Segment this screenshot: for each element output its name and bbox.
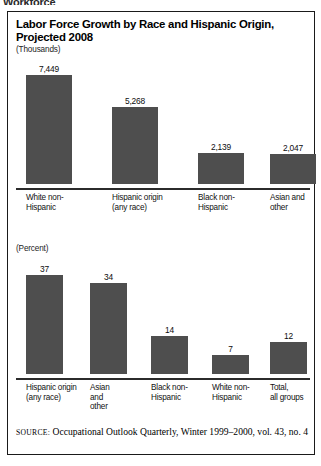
figure-title: Labor Force Growth by Race and Hispanic … — [16, 18, 308, 44]
bar-value-label: 2,047 — [283, 143, 303, 153]
category-label: Hispanic origin(any race) — [26, 383, 90, 402]
bar — [26, 275, 63, 374]
bar — [90, 283, 127, 374]
clipped-page-heading: Workforce — [3, 0, 153, 5]
category-label: Total,all groups — [270, 383, 321, 402]
figure-source-note: SOURCE: Occupational Outlook Quarterly, … — [16, 426, 312, 439]
bar-group: 2,047 — [270, 64, 316, 184]
chart1-axis-line — [16, 188, 310, 190]
bar-group: 7 — [212, 264, 249, 374]
category-label: Asian andother — [270, 193, 321, 212]
bar-group: 34 — [90, 264, 127, 374]
bar-value-label: 7 — [228, 344, 232, 354]
chart2-axis-line — [16, 378, 310, 380]
category-label: Black non-Hispanic — [198, 193, 268, 212]
bar — [26, 75, 72, 184]
chart1-plot-area: 7,4495,2682,1392,047 — [18, 64, 310, 184]
category-label: Black non-Hispanic — [151, 383, 215, 402]
chart2-category-labels: Hispanic origin(any race)AsianandotherBl… — [18, 383, 314, 419]
chart1-category-labels: White non-HispanicHispanic origin(any ra… — [18, 193, 314, 229]
chart-labor-force-growth-percent: 373414712 — [8, 264, 316, 374]
source-citation: Occupational Outlook Quarterly, Winter 1… — [50, 426, 308, 437]
bar-value-label: 14 — [165, 325, 174, 335]
bar-group: 2,139 — [198, 64, 244, 184]
category-label: Asianandother — [90, 383, 154, 412]
bar — [112, 107, 158, 184]
bar-value-label: 12 — [284, 331, 293, 341]
bar — [270, 342, 307, 374]
figure-container: Labor Force Growth by Race and Hispanic … — [7, 11, 315, 455]
bar — [151, 336, 188, 374]
bar — [212, 355, 249, 374]
chart2-unit-label: (Percent) — [16, 244, 48, 253]
category-label: White non-Hispanic — [26, 193, 96, 212]
bar-group: 5,268 — [112, 64, 158, 184]
bar-value-label: 34 — [104, 272, 113, 282]
bar-group: 14 — [151, 264, 188, 374]
chart-labor-force-growth-thousands: 7,4495,2682,1392,047 — [8, 64, 316, 184]
bar — [198, 153, 244, 184]
bar — [270, 154, 316, 184]
bar-group: 7,449 — [26, 64, 72, 184]
chart2-plot-area: 373414712 — [18, 264, 310, 374]
chart1-unit-label: (Thousands) — [16, 45, 60, 54]
bar-value-label: 7,449 — [39, 64, 59, 74]
bar-group: 12 — [270, 264, 307, 374]
bar-value-label: 37 — [40, 264, 49, 274]
bar-group: 37 — [26, 264, 63, 374]
category-label: Hispanic origin(any race) — [112, 193, 182, 212]
category-label: White non-Hispanic — [212, 383, 276, 402]
source-prefix: SOURCE: — [16, 428, 50, 437]
bar-value-label: 5,268 — [125, 96, 145, 106]
bar-value-label: 2,139 — [211, 142, 231, 152]
